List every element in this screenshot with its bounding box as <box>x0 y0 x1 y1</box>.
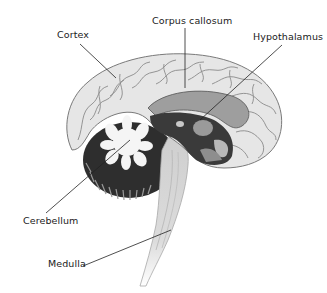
brain-diagram: Corpus callosum Cortex Hypothalamus Cere… <box>0 0 327 293</box>
label-cortex: Cortex <box>57 29 89 40</box>
leader-line-cortex <box>80 44 116 78</box>
brain-illustration <box>0 0 327 293</box>
label-cerebellum: Cerebellum <box>23 215 78 226</box>
label-corpus-callosum: Corpus callosum <box>152 15 232 26</box>
label-hypothalamus: Hypothalamus <box>253 31 323 42</box>
label-medulla: Medulla <box>48 258 86 269</box>
thalamus-shape <box>193 120 213 136</box>
